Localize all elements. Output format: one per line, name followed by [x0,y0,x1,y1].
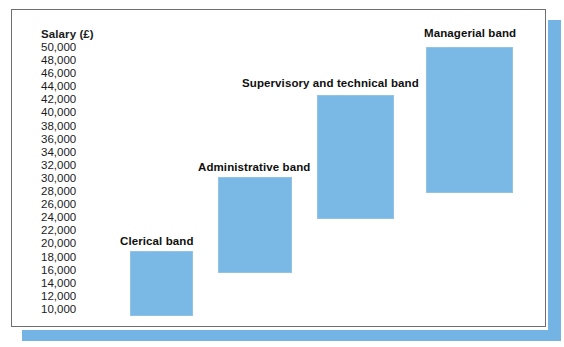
salary-band-chart: Salary (£) 50,000 48,000 46,000 44,000 4… [0,0,564,347]
panel-shadow-right [548,20,561,341]
chart-panel [11,9,546,327]
panel-shadow-bottom [22,330,555,341]
